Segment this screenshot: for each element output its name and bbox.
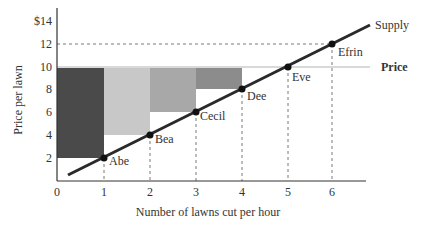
svg-text:Eve: Eve xyxy=(292,70,311,84)
svg-text:10: 10 xyxy=(40,60,52,74)
svg-text:5: 5 xyxy=(285,185,291,199)
surplus-bar-bea xyxy=(104,67,150,135)
y-axis-label: Price per lawn xyxy=(11,65,25,134)
svg-text:12: 12 xyxy=(40,37,52,51)
x-axis-label: Number of lawns cut per hour xyxy=(136,205,280,219)
svg-text:6: 6 xyxy=(329,185,335,199)
svg-text:4: 4 xyxy=(239,185,245,199)
svg-text:2: 2 xyxy=(46,151,52,165)
y-axis-ticks: 2 4 6 8 10 12 $14 xyxy=(34,14,52,165)
svg-text:8: 8 xyxy=(46,82,52,96)
svg-text:Dee: Dee xyxy=(247,89,266,103)
svg-text:Bea: Bea xyxy=(155,132,174,146)
svg-text:6: 6 xyxy=(46,105,52,119)
svg-text:Efrin: Efrin xyxy=(338,45,363,59)
svg-text:2: 2 xyxy=(147,185,153,199)
price-label: Price xyxy=(381,60,408,74)
supply-label: Supply xyxy=(375,18,409,32)
surplus-bar-cecil xyxy=(150,67,196,112)
svg-text:4: 4 xyxy=(46,128,52,142)
svg-text:3: 3 xyxy=(193,185,199,199)
svg-text:0: 0 xyxy=(54,185,60,199)
x-axis-ticks: 0 1 2 3 4 5 6 xyxy=(54,185,335,199)
svg-text:Abe: Abe xyxy=(109,154,129,168)
surplus-bar-dee xyxy=(196,67,242,89)
svg-text:$14: $14 xyxy=(34,14,52,28)
surplus-bar-abe xyxy=(57,67,104,158)
svg-text:1: 1 xyxy=(101,185,107,199)
svg-text:Cecil: Cecil xyxy=(200,109,226,123)
supply-chart: 2 4 6 8 10 12 $14 0 1 2 3 4 5 6 Number o… xyxy=(0,0,422,226)
